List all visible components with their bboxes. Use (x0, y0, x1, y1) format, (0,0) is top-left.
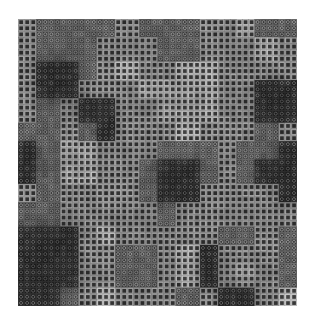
grid-texture (18, 19, 297, 306)
texture-canvas (18, 19, 297, 306)
image-frame (0, 0, 312, 322)
